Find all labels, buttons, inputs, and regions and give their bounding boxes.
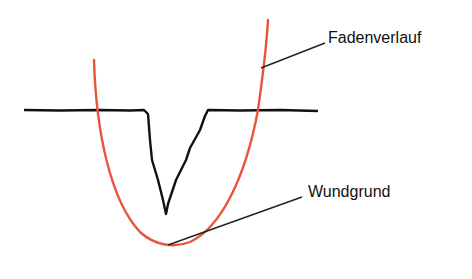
thread-leader-line: [261, 43, 325, 68]
suture-diagram: Fadenverlauf Wundgrund: [0, 0, 472, 279]
thread-label: Fadenverlauf: [328, 29, 422, 46]
thread-path: [94, 20, 268, 245]
wound-base-label: Wundgrund: [308, 183, 390, 200]
wound-profile: [24, 110, 318, 214]
wound-base-leader-line: [168, 197, 302, 245]
